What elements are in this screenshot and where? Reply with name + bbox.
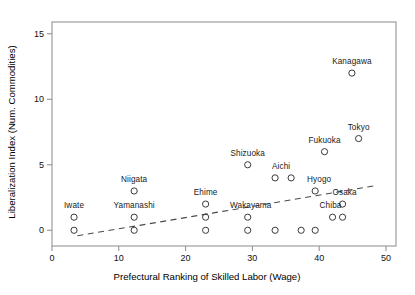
plot-frame xyxy=(52,22,396,246)
point-label: Tokyo xyxy=(348,123,370,132)
point-label: Fukuoka xyxy=(308,136,340,145)
point-label: Hyogo xyxy=(307,175,331,184)
x-axis-title: Prefectural Ranking of Skilled Labor (Wa… xyxy=(114,271,301,282)
point-label: Osaka xyxy=(332,188,356,197)
point-label: Niigata xyxy=(121,175,147,184)
x-tick-label: 30 xyxy=(247,253,257,263)
scatter-chart-figure: IwateNiigataYamanashiEhimeShizuokaWakaya… xyxy=(0,0,415,295)
x-tick-label: 50 xyxy=(381,253,391,263)
y-tick-label: 10 xyxy=(34,94,44,104)
point-label: Chiba xyxy=(320,201,342,210)
point-label: Aichi xyxy=(272,162,290,171)
x-tick-label: 20 xyxy=(181,253,191,263)
point-label: Kanagawa xyxy=(332,57,372,66)
y-axis-title: Liberalization Index (Num. Commodities) xyxy=(6,45,17,218)
y-tick-label: 5 xyxy=(39,160,44,170)
plot-canvas xyxy=(0,0,415,295)
y-tick-label: 0 xyxy=(39,225,44,235)
point-label: Yamanashi xyxy=(114,201,155,210)
y-tick-label: 15 xyxy=(34,29,44,39)
point-label: Shizuoka xyxy=(230,149,264,158)
point-label: Ehime xyxy=(194,188,218,197)
x-tick-label: 0 xyxy=(49,253,54,263)
point-label: Iwate xyxy=(64,201,84,210)
x-tick-label: 40 xyxy=(314,253,324,263)
x-tick-label: 10 xyxy=(114,253,124,263)
point-label: Wakayama xyxy=(230,201,271,210)
